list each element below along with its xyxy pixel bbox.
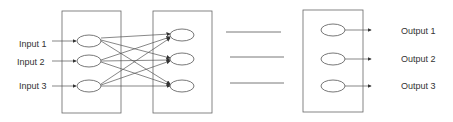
output-node-3 xyxy=(321,80,345,92)
input-node-1 xyxy=(77,35,101,47)
output-label-2: Output 2 xyxy=(401,54,436,64)
hidden-node-2 xyxy=(170,53,194,65)
input-label-3: Input 3 xyxy=(19,81,47,91)
input-label-1: Input 1 xyxy=(19,39,47,49)
output-label-1: Output 1 xyxy=(401,26,436,36)
hidden-node-3 xyxy=(170,80,194,92)
network-diagram xyxy=(0,0,453,122)
output-node-1 xyxy=(321,24,345,36)
input-node-2 xyxy=(77,55,101,67)
hidden-node-1 xyxy=(170,29,194,41)
output-label-3: Output 3 xyxy=(401,81,436,91)
input-node-3 xyxy=(77,80,101,92)
output-node-2 xyxy=(321,53,345,65)
input-label-2: Input 2 xyxy=(17,57,45,67)
